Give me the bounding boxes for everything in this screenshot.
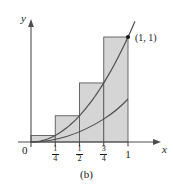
riemann-sum-figure: y x 0 (1, 1) 1 4 1 2 3 4 1 (b) — [0, 0, 173, 188]
whole-number-one: 1 — [125, 146, 131, 160]
x-tick-label-one-half: 1 2 — [67, 145, 93, 164]
origin-label: 0 — [22, 145, 28, 156]
y-axis-label: y — [21, 13, 26, 24]
point-label: (1, 1) — [135, 33, 157, 43]
x-tick-label-three-quarters: 3 4 — [91, 145, 117, 164]
point-marker-1-1 — [126, 35, 130, 39]
fraction-one-half: 1 2 — [76, 145, 83, 164]
fraction-denominator: 4 — [100, 155, 107, 163]
y-axis-arrow-icon — [28, 19, 34, 27]
figure-caption: (b) — [0, 169, 173, 180]
fraction-numerator: 1 — [52, 145, 59, 153]
fraction-one-quarter: 1 4 — [52, 145, 59, 164]
fraction-three-quarters: 3 4 — [100, 145, 107, 164]
table-row — [104, 37, 128, 142]
fraction-numerator: 1 — [76, 145, 83, 153]
fraction-denominator: 4 — [52, 155, 59, 163]
x-axis-arrow-icon — [153, 139, 161, 145]
x-tick-label-one-quarter: 1 4 — [42, 145, 68, 164]
fraction-numerator: 3 — [100, 145, 107, 153]
fraction-denominator: 2 — [76, 155, 83, 163]
x-axis-label: x — [162, 144, 167, 155]
x-tick-label-one: 1 — [115, 145, 141, 161]
riemann-rectangles — [31, 37, 128, 142]
